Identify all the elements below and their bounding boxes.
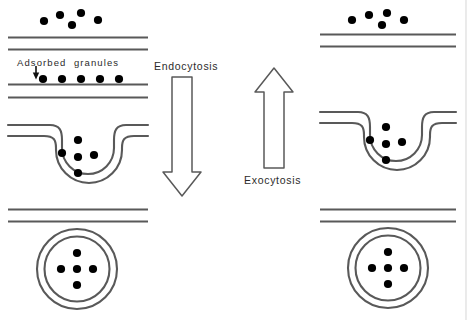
granule bbox=[74, 169, 82, 177]
granule bbox=[89, 265, 97, 273]
right-stage-released-granules bbox=[320, 9, 456, 47]
granule bbox=[77, 75, 85, 83]
granule bbox=[348, 16, 356, 24]
endocytosis-exocytosis-diagram: Adsorbed granules Endocytosis Exocytosis bbox=[0, 0, 467, 320]
granule bbox=[384, 264, 392, 272]
granule bbox=[400, 264, 408, 272]
adsorbed-granules-pointer-arrow bbox=[33, 66, 39, 80]
granule bbox=[115, 75, 123, 83]
vesicle-granule-cluster bbox=[57, 249, 97, 289]
endocytosis-arrow-shape bbox=[163, 77, 201, 196]
granule bbox=[398, 138, 406, 146]
granule bbox=[378, 21, 386, 29]
granule bbox=[365, 11, 373, 19]
granule bbox=[73, 265, 81, 273]
granule bbox=[73, 281, 81, 289]
endocytosis-label: Endocytosis bbox=[154, 60, 218, 72]
granule bbox=[96, 75, 104, 83]
left-stage-adsorbed-granules bbox=[8, 66, 148, 98]
granule bbox=[74, 136, 82, 144]
granule bbox=[384, 248, 392, 256]
granule bbox=[57, 265, 65, 273]
granule bbox=[77, 9, 85, 17]
granule bbox=[94, 16, 102, 24]
granule bbox=[58, 149, 66, 157]
exocytosis-label: Exocytosis bbox=[244, 174, 301, 186]
left-stage-internalized-vesicle bbox=[8, 210, 148, 310]
granule bbox=[56, 11, 64, 19]
granule bbox=[368, 264, 376, 272]
granule bbox=[40, 17, 48, 25]
granule bbox=[73, 249, 81, 257]
adsorbed-granules-label: Adsorbed granules bbox=[17, 57, 119, 68]
adsorbed-granule-row bbox=[39, 75, 123, 83]
invagination-outer-leaflet bbox=[8, 125, 148, 174]
granule bbox=[39, 75, 47, 83]
free-granule-cluster-left bbox=[40, 9, 102, 29]
released-granule-cluster-right bbox=[348, 9, 408, 29]
exocytosis-arrow bbox=[255, 68, 293, 168]
granule bbox=[90, 151, 98, 159]
granule bbox=[382, 140, 390, 148]
diagram-canvas bbox=[0, 0, 467, 320]
granule bbox=[383, 9, 391, 17]
endocytosis-arrow bbox=[163, 77, 201, 196]
left-stage-invagination bbox=[8, 125, 148, 183]
granule bbox=[382, 156, 390, 164]
right-stage-secretory-vesicle bbox=[320, 210, 456, 309]
granule bbox=[400, 16, 408, 24]
granule bbox=[74, 153, 82, 161]
granule bbox=[68, 21, 76, 29]
granule bbox=[382, 123, 390, 131]
fusion-pit-outer-leaflet bbox=[320, 112, 456, 161]
left-stage-free-granules bbox=[8, 9, 148, 50]
granule bbox=[384, 280, 392, 288]
exocytosis-arrow-shape bbox=[255, 68, 293, 168]
granule bbox=[366, 136, 374, 144]
granule bbox=[58, 75, 66, 83]
right-stage-fusion-pit bbox=[320, 112, 456, 170]
vesicle-granule-cluster bbox=[368, 248, 408, 288]
